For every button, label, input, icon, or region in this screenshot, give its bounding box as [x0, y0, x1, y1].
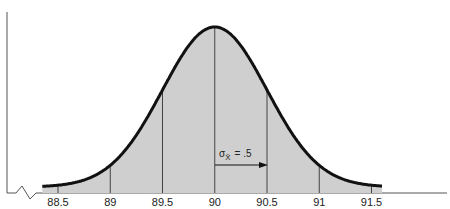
x-tick-label: 90: [209, 196, 221, 208]
x-tick-label: 91: [313, 196, 325, 208]
x-tick-label: 91.5: [361, 196, 382, 208]
axis-break-icon: [7, 186, 44, 199]
normal-distribution-chart: 88.58989.59090.59191.5 σX̄= .5: [0, 0, 450, 209]
x-tick-label: 90.5: [256, 196, 277, 208]
x-tick-label: 88.5: [47, 196, 68, 208]
x-tick-labels: 88.58989.59090.59191.5: [47, 196, 382, 208]
curve-area: [42, 27, 382, 193]
x-tick-label: 89: [104, 196, 116, 208]
x-tick-label: 89.5: [152, 196, 173, 208]
sigma-subscript: X̄: [225, 153, 231, 162]
sigma-value: = .5: [235, 148, 252, 159]
